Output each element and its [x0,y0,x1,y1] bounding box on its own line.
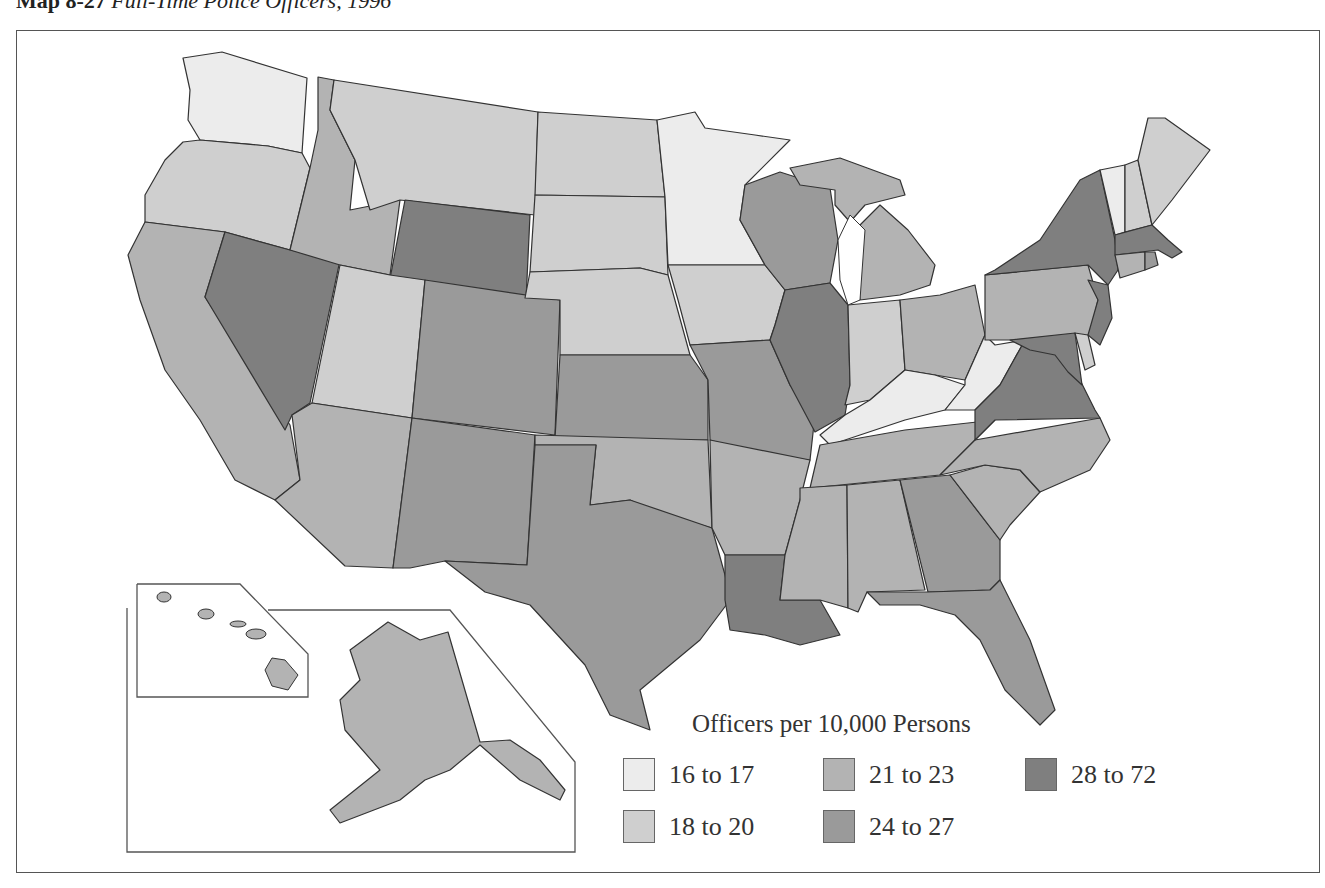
state-PA[interactable] [985,265,1098,340]
lake-michigan [838,215,865,305]
legend-item-18-20: 18 to 20 [623,810,754,843]
state-CO[interactable] [412,280,560,435]
state-MI-lower[interactable] [855,205,935,300]
state-HI[interactable] [157,592,298,690]
legend-swatch [823,810,855,843]
legend-label: 21 to 23 [869,760,954,790]
state-RI[interactable] [1145,252,1158,270]
state-ME[interactable] [1138,118,1210,225]
state-AK[interactable] [330,622,565,823]
legend-label: 16 to 17 [669,760,754,790]
state-IA[interactable] [668,265,785,345]
legend-label: 28 to 72 [1071,760,1156,790]
legend-item-21-23: 21 to 23 [823,758,954,791]
legend-label: 18 to 20 [669,812,754,842]
us-choropleth-map [0,0,1325,888]
legend-item-28-72: 28 to 72 [1025,758,1156,791]
legend-swatch [623,810,655,843]
legend-item-16-17: 16 to 17 [623,758,754,791]
state-MT[interactable] [330,80,538,215]
states-layer [128,52,1210,730]
state-WA[interactable] [183,52,307,153]
state-AZ[interactable] [275,403,412,568]
legend-swatch [623,758,655,791]
legend-label: 24 to 27 [869,812,954,842]
state-FL[interactable] [867,580,1055,725]
legend-swatch [1025,758,1057,791]
legend-item-24-27: 24 to 27 [823,810,954,843]
legend-title: Officers per 10,000 Persons [692,710,971,738]
state-CT[interactable] [1115,252,1145,278]
state-KS[interactable] [555,355,708,440]
legend-swatch [823,758,855,791]
state-SD[interactable] [530,195,668,275]
great-lakes [838,215,865,305]
state-ND[interactable] [535,112,665,197]
state-NY[interactable] [985,170,1118,285]
state-NM[interactable] [393,418,535,568]
